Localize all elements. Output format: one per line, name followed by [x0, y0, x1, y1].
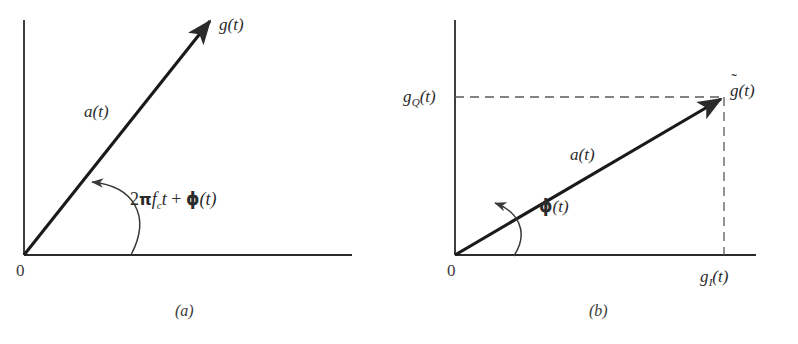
panel-b-caption: (b): [589, 303, 608, 319]
inphase-label-base: g: [700, 267, 709, 286]
angle-coef-two: 2: [130, 189, 139, 209]
panel-b-tip-label: ˜g(t): [730, 82, 755, 99]
angle-f-symbol: f: [152, 189, 157, 209]
angle-t-symbol: t: [162, 189, 167, 209]
panel-a-magnitude-label: a(t): [84, 103, 109, 120]
panel-a-tip-label: g(t): [219, 16, 244, 33]
angle-pi-symbol: π: [139, 190, 152, 209]
panel-b-tip-label-accented: ˜g: [730, 82, 739, 99]
panel-a-canvas: [0, 0, 399, 344]
panel-b-angle-label: ϕ(t): [539, 198, 569, 215]
panel-b-tip-label-arg: (t): [739, 81, 755, 100]
panel-b-magnitude-label: a(t): [570, 146, 595, 163]
angle-plus-sign: +: [171, 189, 181, 209]
panel-b-origin-label: 0: [447, 262, 456, 279]
panel-a-origin-label: 0: [16, 262, 25, 279]
quadrature-label-subscript: Q: [412, 96, 420, 108]
quadrature-label-arg: (t): [420, 87, 436, 106]
panel-b-phi-symbol: ϕ: [539, 196, 553, 216]
quadrature-label-base: g: [403, 87, 412, 106]
panel-b-inphase-axis-label: gI(t): [700, 268, 728, 288]
inphase-label-arg: (t): [712, 267, 728, 286]
panel-b: ˜g(t) gQ(t) gI(t) a(t) ϕ(t) 0 (b): [399, 0, 798, 344]
figure-root: g(t) a(t) 2πfct + ϕ(t) 0 (a): [0, 0, 798, 344]
panel-a: g(t) a(t) 2πfct + ϕ(t) 0 (a): [0, 0, 399, 344]
angle-phi-symbol: ϕ: [186, 189, 200, 209]
panel-b-quadrature-axis-label: gQ(t): [403, 88, 436, 108]
panel-a-phasor-vector: [24, 21, 210, 255]
panel-b-canvas: [399, 0, 798, 344]
panel-a-angle-label: 2πfct + ϕ(t): [130, 190, 216, 211]
angle-phi-argument: (t): [199, 189, 216, 209]
panel-a-caption: (a): [175, 303, 194, 319]
panel-b-phi-argument: (t): [553, 197, 569, 216]
panel-b-phasor-vector: [455, 99, 721, 255]
tilde-accent-icon: ˜: [732, 72, 737, 88]
